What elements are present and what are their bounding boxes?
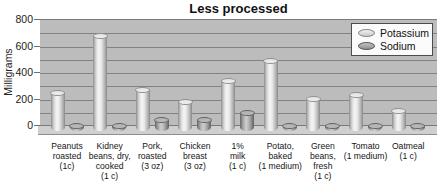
y-tick-label-200: 200	[3, 93, 33, 105]
bar-sodium-3	[197, 120, 211, 131]
cylinder-cap	[178, 99, 193, 105]
y-tick-mark-800	[34, 19, 40, 20]
cylinder-cap	[410, 123, 425, 129]
cylinder-cap	[197, 117, 212, 123]
bar-potassium-8	[392, 111, 406, 131]
y-tick-mark-600	[34, 46, 40, 47]
cylinder-cap	[240, 110, 255, 116]
potassium-swatch-icon	[358, 29, 375, 37]
y-tick-mark-200	[34, 99, 40, 100]
y-tick-label-0: 0	[3, 119, 33, 131]
cylinder-cap	[282, 123, 297, 129]
y-tick-label-600: 600	[3, 40, 33, 52]
bar-chart-figure: Less processed Milligrams 8006004002000 …	[0, 0, 443, 181]
bar-potassium-4	[221, 81, 235, 131]
cylinder-cap	[50, 90, 65, 96]
bar-potassium-0	[51, 93, 65, 131]
legend-label-potassium: Potassium	[380, 27, 429, 39]
bar-potassium-3	[178, 102, 192, 131]
cylinder-cap	[325, 123, 340, 129]
y-tick-mark-400	[34, 72, 40, 73]
x-label-8: Oatmeal (1 c)	[377, 141, 439, 161]
bar-potassium-6	[306, 99, 320, 131]
cylinder-cap	[391, 108, 406, 114]
cylinder-cap	[349, 92, 364, 98]
y-tick-label-400: 400	[3, 66, 33, 78]
bar-potassium-2	[136, 90, 150, 131]
bar-sodium-0	[70, 126, 84, 131]
cylinder-cap	[368, 123, 383, 129]
cylinder-cap	[69, 123, 84, 129]
bar-potassium-7	[349, 95, 363, 131]
bar-potassium-1	[93, 36, 107, 131]
cylinder-cap	[154, 117, 169, 123]
y-tick-mark-0	[34, 125, 40, 126]
legend-label-sodium: Sodium	[380, 40, 416, 52]
cylinder-cap	[93, 33, 108, 39]
cylinder-cap	[263, 58, 278, 64]
legend-item-sodium: Sodium	[358, 39, 428, 52]
legend: Potassium Sodium	[351, 23, 433, 56]
sodium-swatch-icon	[358, 42, 375, 50]
cylinder-cap	[112, 123, 127, 129]
bar-potassium-5	[264, 61, 278, 131]
cylinder-cap	[306, 96, 321, 102]
bar-sodium-4	[240, 113, 254, 131]
legend-item-potassium: Potassium	[358, 26, 428, 39]
y-tick-label-800: 800	[3, 13, 33, 25]
chart-title: Less processed	[40, 1, 437, 16]
bar-sodium-2	[155, 120, 169, 131]
cylinder-cap	[135, 87, 150, 93]
cylinder-cap	[221, 78, 236, 84]
